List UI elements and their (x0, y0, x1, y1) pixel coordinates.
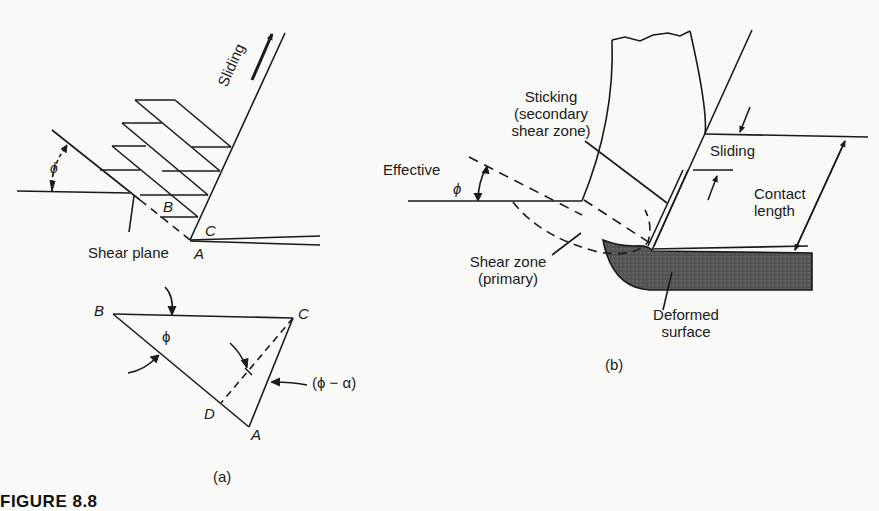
secondary-shear-line-1 (648, 170, 683, 246)
shear-plane-leader (129, 196, 134, 232)
triangle-vertex-d: D (204, 405, 215, 422)
shear-zone-leader (552, 233, 581, 255)
effective-label: Effective (383, 161, 440, 178)
effective-shear-plane (469, 157, 582, 215)
panel-b-label: (b) (605, 356, 623, 373)
sliding-label-b: Sliding (710, 142, 755, 159)
triangle-vertex-b: B (94, 302, 104, 319)
triangle-phi-label: ϕ (162, 328, 170, 345)
phi-minus-alpha-label: (ϕ − α) (312, 374, 356, 391)
figure-caption: FIGURE 8.8 (0, 492, 98, 511)
work-surface-bottom (190, 241, 320, 245)
triangle-side-bc (113, 314, 293, 318)
point-c-label: C (205, 222, 216, 239)
sliding-arrow-bottom (708, 176, 717, 200)
chip-jagged-top (612, 31, 690, 41)
phi-label-b: ϕ (453, 180, 461, 197)
point-a-label: A (194, 245, 204, 262)
sticking-leader (585, 141, 667, 203)
sliding-arrow (252, 34, 272, 80)
contact-top-line (705, 134, 868, 137)
triangle-vertex-a: A (251, 426, 261, 443)
contact-length-label: Contact length (754, 185, 806, 219)
shear-zone-label: Shear zone (primary) (462, 253, 554, 287)
sliding-arrow-top (740, 107, 750, 132)
shear-plane-line (52, 130, 140, 200)
triangle-vertex-c: C (298, 305, 309, 322)
shear-plane-label: Shear plane (88, 244, 169, 261)
reference-line (17, 191, 130, 193)
chip-right-curve (690, 31, 705, 134)
sticking-label: Sticking (secondary shear zone) (503, 88, 599, 139)
phi-label-a: ϕ (50, 160, 58, 177)
point-b-label: B (163, 198, 173, 215)
triangle-dashed-cd (221, 318, 293, 403)
deformed-surface-label: Deformed surface (646, 306, 726, 340)
panel-a-label: (a) (213, 468, 231, 485)
triangle-side-ca (249, 318, 293, 427)
triangle-side-ba (113, 314, 249, 427)
contact-bottom-line (652, 246, 808, 249)
